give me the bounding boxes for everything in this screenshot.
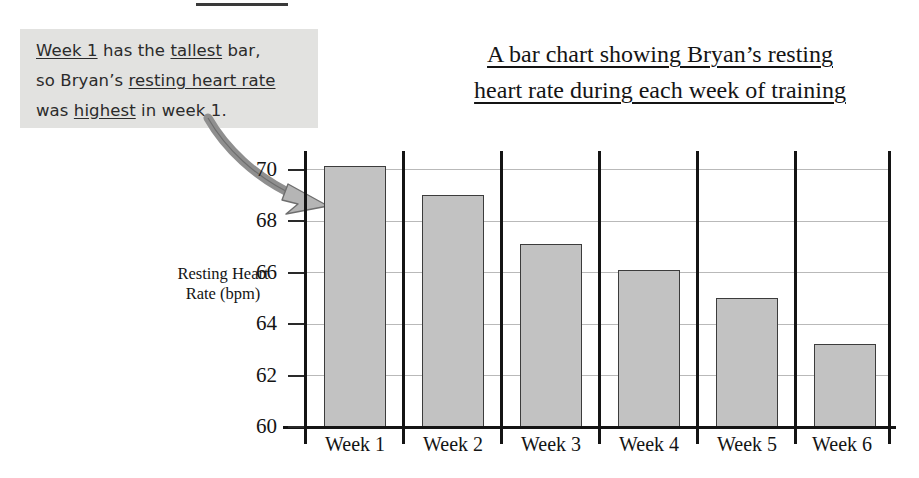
x-axis-label-week-5: Week 5: [698, 432, 796, 456]
category-separator: [888, 151, 891, 427]
y-tick-label: 68: [237, 210, 277, 231]
x-axis-label-week-1: Week 1: [306, 432, 404, 456]
y-tick-label: 64: [237, 313, 277, 334]
x-axis-label-week-4: Week 4: [600, 432, 698, 456]
y-tick-label: 70: [237, 159, 277, 180]
category-separator: [402, 151, 405, 427]
y-tick: [288, 426, 304, 428]
y-tick-label: 62: [237, 365, 277, 386]
y-tick: [288, 169, 304, 171]
x-axis-label-week-2: Week 2: [404, 432, 502, 456]
y-tick-label: 60: [237, 416, 277, 437]
bar-week-2: [422, 195, 484, 427]
x-axis-line: [283, 426, 896, 429]
category-separator: [696, 151, 699, 427]
y-tick-label: 66: [237, 262, 277, 283]
bar-week-3: [520, 244, 582, 427]
bar-week-1: [324, 166, 386, 427]
y-tick: [288, 272, 304, 274]
bar-week-4: [618, 270, 680, 427]
category-separator: [598, 151, 601, 427]
y-tick: [288, 375, 304, 377]
y-axis-title-line-2: Rate (bpm): [150, 284, 296, 304]
y-tick: [288, 220, 304, 222]
x-axis-label-week-3: Week 3: [502, 432, 600, 456]
x-axis-label-week-6: Week 6: [793, 432, 891, 456]
bar-chart: Resting Heart Rate (bpm) 70 68 66 64 62 …: [0, 0, 919, 478]
y-axis-line: [304, 151, 307, 444]
category-separator: [500, 151, 503, 427]
y-tick: [288, 323, 304, 325]
bar-week-6: [814, 344, 876, 427]
bar-week-5: [716, 298, 778, 427]
category-separator: [794, 151, 797, 427]
